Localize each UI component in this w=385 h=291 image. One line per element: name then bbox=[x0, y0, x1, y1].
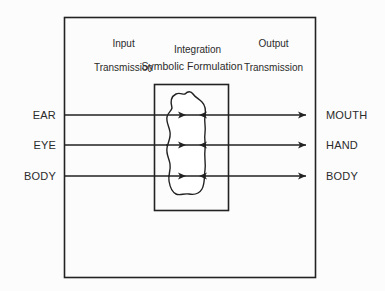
diagram-canvas: Input Transmission Integration Output Tr… bbox=[0, 0, 385, 291]
column-heading-output-line1: Output bbox=[259, 38, 289, 49]
symbolic-formulation-blob bbox=[167, 92, 206, 195]
output-label-mouth: MOUTH bbox=[326, 110, 385, 121]
output-label-hand: HAND bbox=[326, 140, 385, 151]
input-label-eye: EYE bbox=[0, 140, 56, 151]
column-heading-output: Output Transmission bbox=[208, 26, 328, 86]
output-label-body: BODY bbox=[326, 171, 385, 182]
input-label-ear: EAR bbox=[0, 110, 56, 121]
input-label-body: BODY bbox=[0, 171, 56, 182]
sub-heading-symbolic-formulation: Symbolic Formulation bbox=[92, 61, 292, 72]
